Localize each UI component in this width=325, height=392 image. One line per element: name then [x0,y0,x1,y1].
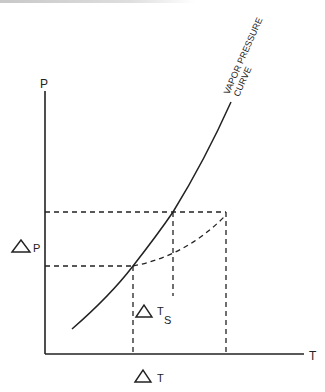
delta-ts-triangle-icon [136,305,152,317]
delta-p-label: P [33,242,40,254]
y-axis-label: P [40,77,48,91]
vapor-pressure-curve [72,102,231,329]
delta-ts-subscript: S [164,314,171,326]
delta-t-triangle-icon [135,370,151,382]
vapor-pressure-diagram: P T VAPOR PRESSURE CURVE P T S T [0,0,325,392]
dashed-process-curve [133,217,224,266]
delta-ts-label: T [157,305,164,317]
delta-t-label: T [157,372,164,384]
x-axis-label: T [309,349,317,363]
delta-p-triangle-icon [12,240,30,252]
